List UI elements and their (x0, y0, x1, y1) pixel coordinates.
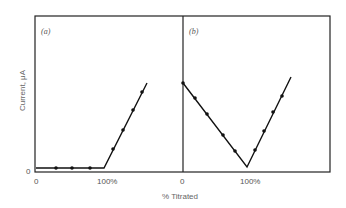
x-tick-b-0: 0 (180, 177, 184, 186)
x-axis-label: % Titrated (162, 192, 198, 201)
x-tick-a-0: 0 (34, 177, 38, 186)
curve-a (36, 83, 147, 168)
x-tick-b-100: 100% (240, 177, 260, 186)
titration-chart (0, 0, 346, 208)
curve-b-markers (181, 81, 284, 153)
y-tick-zero: 0 (26, 167, 30, 176)
curve-a-markers (54, 90, 144, 170)
x-tick-a-100: 100% (97, 177, 117, 186)
panel-label-a: (a) (41, 27, 50, 36)
y-axis-label: Current, μA (18, 61, 27, 121)
curve-b (183, 77, 291, 167)
panel-label-b: (b) (189, 27, 198, 36)
